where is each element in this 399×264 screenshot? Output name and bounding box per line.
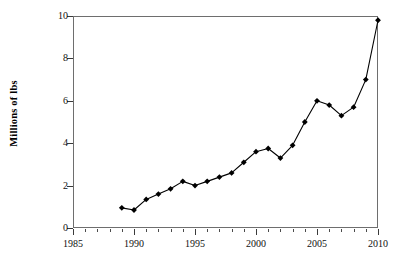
data-point-1997 bbox=[217, 174, 223, 180]
data-point-2010 bbox=[375, 17, 381, 23]
data-point-1996 bbox=[204, 178, 210, 184]
data-point-2004 bbox=[302, 119, 308, 125]
data-point-1993 bbox=[168, 186, 174, 192]
data-point-1992 bbox=[156, 191, 162, 197]
line-chart: Millions of lbs 0246810 1985199019952000… bbox=[0, 0, 399, 264]
data-point-1995 bbox=[192, 183, 198, 189]
data-series-layer bbox=[0, 0, 399, 264]
data-point-2005 bbox=[314, 98, 320, 104]
data-point-2009 bbox=[363, 77, 369, 83]
data-point-1994 bbox=[180, 178, 186, 184]
data-point-1989 bbox=[119, 205, 125, 211]
series-markers bbox=[119, 17, 381, 213]
